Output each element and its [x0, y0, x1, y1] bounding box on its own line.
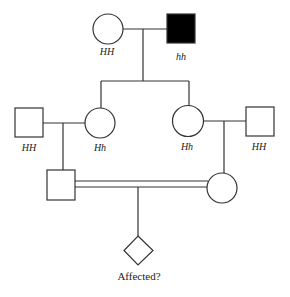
genotype-label-gen1-male: hh	[176, 52, 186, 62]
male-symbol-gen2-right	[246, 107, 274, 136]
genotype-label-gen1-female: HH	[100, 47, 114, 57]
genotype-label-gen2-right-female: Hh	[181, 142, 193, 152]
affected-male-symbol-gen1	[167, 14, 195, 43]
unknown-sex-symbol-gen4	[124, 236, 153, 265]
genotype-label-gen2-left-female: Hh	[94, 143, 106, 153]
female-symbol-gen2-right	[173, 106, 204, 137]
pedigree-diagram	[0, 0, 290, 297]
genotype-label-gen2-left-male: HH	[22, 143, 36, 153]
female-symbol-gen3	[207, 173, 237, 203]
female-symbol-gen1	[93, 14, 123, 44]
female-symbol-gen2-left	[85, 108, 115, 138]
affected-question-label: Affected?	[117, 271, 160, 282]
male-symbol-gen2-left	[15, 108, 43, 137]
genotype-label-gen2-right-male: HH	[252, 142, 266, 152]
male-symbol-gen3	[47, 170, 75, 200]
